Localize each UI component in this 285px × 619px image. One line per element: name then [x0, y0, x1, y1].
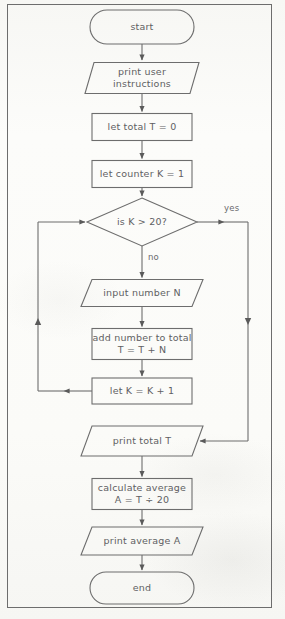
node-add-number — [92, 329, 192, 360]
node-input-number — [81, 280, 203, 307]
edge-loop-back-midpoint-arrow — [35, 318, 41, 325]
node-calculate-average — [92, 479, 192, 510]
node-end — [90, 572, 194, 604]
flowchart-page: start print user instructions let total … — [0, 0, 285, 619]
node-start — [90, 10, 194, 44]
node-increment — [92, 378, 192, 404]
node-let-total — [92, 114, 192, 141]
node-let-counter — [92, 161, 192, 188]
edge-decision-yes-midpoint-arrow — [245, 318, 251, 325]
node-print-instructions — [85, 63, 199, 94]
node-print-average — [81, 527, 203, 555]
flowchart-canvas — [0, 0, 285, 619]
node-decision — [87, 198, 197, 246]
node-print-total — [81, 426, 203, 456]
